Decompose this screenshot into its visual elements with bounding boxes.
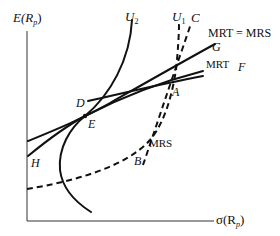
mrs-label: MRS <box>149 138 172 149</box>
point-e-dot <box>83 114 87 118</box>
x-axis-label: σ(Rp) <box>216 213 244 226</box>
mrt-tangent-line <box>88 76 203 101</box>
efficient-frontier-diagram: E(Rp) σ(Rp) U2 U1 C MRT = MRS G MRT F MR… <box>0 0 280 236</box>
mrt-label: MRT <box>206 59 229 70</box>
u2-indifference-curve <box>60 20 132 212</box>
y-axis-label-sub: p <box>33 18 37 27</box>
point-b-label: B <box>134 155 141 167</box>
f-label: F <box>238 61 245 73</box>
point-d-label: D <box>76 97 85 109</box>
y-axis-label-close: ) <box>37 10 41 25</box>
x-axis-label-close: ) <box>240 212 244 227</box>
y-axis-label-main: E(R <box>13 10 33 25</box>
x-axis-label-main: σ(R <box>216 212 236 227</box>
point-a-label: A <box>172 86 179 98</box>
u1-label: U1 <box>172 10 185 23</box>
x-axis-label-sub: p <box>236 220 240 229</box>
u2-label-sub: 2 <box>134 17 138 26</box>
c-label: C <box>191 11 200 24</box>
frontier-curve-hef <box>28 71 203 156</box>
g-label: G <box>212 41 221 53</box>
u2-label: U2 <box>125 10 138 23</box>
point-e-label: E <box>88 118 95 130</box>
u1-label-sub: 1 <box>181 17 185 26</box>
y-axis-label: E(Rp) <box>13 11 42 24</box>
mrt-eq-mrs-label: MRT = MRS <box>208 27 271 39</box>
u2-label-main: U <box>125 9 134 24</box>
u1-label-main: U <box>172 9 181 24</box>
point-h-label: H <box>31 157 40 169</box>
